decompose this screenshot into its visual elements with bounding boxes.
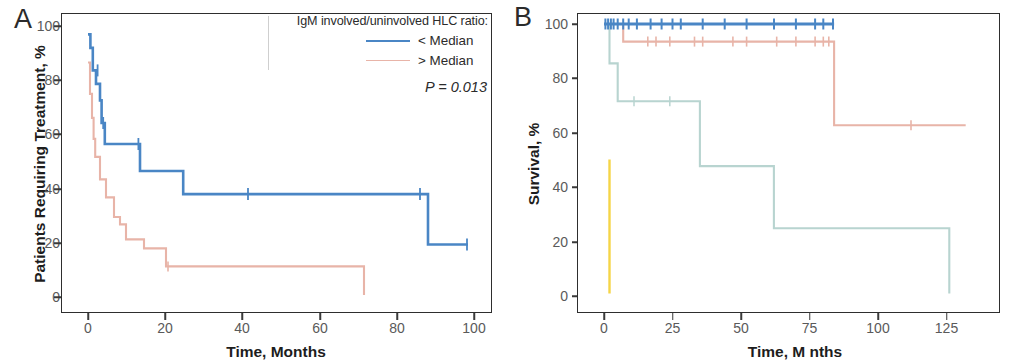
panel-a: A Patients Requiring Treatment, % 100 80…	[0, 0, 504, 362]
panel-a-xtick-40: 40	[220, 320, 264, 336]
panel-a-xtick-20: 20	[143, 320, 187, 336]
panel-a-xtick-mark-60	[319, 313, 321, 320]
panel-a-xtick-100: 100	[452, 320, 496, 336]
panel-b-xtick-50: 50	[719, 320, 763, 336]
panel-b-xtick-mark-25	[672, 313, 674, 320]
panel-a-xtick-80: 80	[375, 320, 419, 336]
panel-a-xtick-mark-0	[87, 313, 89, 320]
panel-a-xtick-0: 0	[66, 320, 110, 336]
panel-b-xtick-75: 75	[788, 320, 832, 336]
panel-a-legend-label-1: > Median	[418, 53, 490, 68]
kaplan-meier-figure: A Patients Requiring Treatment, % 100 80…	[0, 0, 1009, 362]
panel-b-curves	[504, 0, 1009, 362]
panel-b-xtick-mark-125	[946, 313, 948, 320]
panel-b-xtick-mark-50	[740, 313, 742, 320]
panel-a-xtick-mark-20	[164, 313, 166, 320]
panel-a-xtick-mark-100	[473, 313, 475, 320]
panel-b-xtick-125: 125	[925, 320, 969, 336]
panel-a-legend-label-0: < Median	[418, 33, 490, 48]
panel-a-xtick-mark-40	[241, 313, 243, 320]
panel-a-legend-title: IgM involved/uninvolved HLC ratio:	[262, 14, 490, 28]
panel-b-series-1-factors	[604, 24, 966, 125]
panel-a-pvalue-text: P = 0.013	[425, 79, 487, 95]
panel-b: B Survival, % 100 80 60 40 20 0	[504, 0, 1009, 362]
panel-a-xtick-mark-80	[396, 313, 398, 320]
panel-a-pvalue: P = 0.013	[262, 79, 490, 95]
panel-b-series-2-factors	[604, 24, 949, 294]
panel-b-xtick-25: 25	[651, 320, 695, 336]
panel-b-xtick-mark-75	[809, 313, 811, 320]
panel-a-xtick-60: 60	[298, 320, 342, 336]
panel-a-series-above-median	[88, 63, 364, 295]
legend-swatch-blue	[366, 40, 410, 42]
panel-a-legend-item-below-median[interactable]: < Median	[262, 33, 490, 48]
panel-b-xtick-mark-100	[877, 313, 879, 320]
panel-a-x-axis-title: Time, Months	[186, 343, 366, 361]
legend-swatch-salmon	[366, 60, 410, 61]
panel-b-xtick-mark-0	[603, 313, 605, 320]
panel-b-xtick-0: 0	[582, 320, 626, 336]
panel-b-xtick-100: 100	[856, 320, 900, 336]
panel-a-legend: IgM involved/uninvolved HLC ratio: < Med…	[262, 14, 490, 95]
panel-b-x-axis-title: Time, M nths	[700, 343, 890, 361]
panel-a-legend-item-above-median[interactable]: > Median	[262, 53, 490, 68]
